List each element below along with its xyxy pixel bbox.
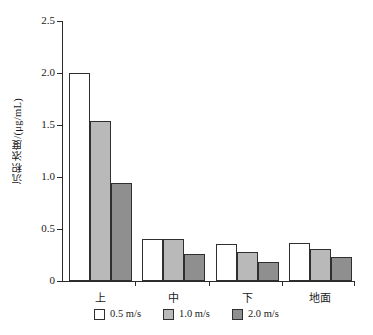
legend-item: 2.0 m/s — [232, 308, 279, 320]
bar — [142, 239, 163, 281]
y-axis-tick-label: 2.0 — [41, 66, 55, 79]
y-axis-tick-label: 1.0 — [41, 170, 55, 183]
x-axis-category-label: 上 — [95, 289, 106, 305]
y-axis-tick-mark — [57, 229, 62, 230]
y-axis-tick-mark — [57, 125, 62, 126]
bar — [163, 239, 184, 281]
y-axis-tick-mark — [57, 21, 62, 22]
x-axis-category-label: 下 — [242, 289, 253, 305]
y-axis-line — [62, 21, 63, 281]
x-axis-category-label: 地面 — [309, 289, 331, 305]
x-axis-minor-tick — [135, 281, 136, 286]
legend-swatch — [163, 309, 174, 320]
legend-swatch — [94, 309, 105, 320]
bar — [90, 121, 111, 281]
x-axis-category-label: 中 — [168, 289, 179, 305]
bar — [184, 254, 205, 281]
legend-item: 0.5 m/s — [94, 308, 141, 320]
y-axis-tick-label: 0 — [50, 274, 56, 287]
y-axis-title-text: 沉积浓度/(μg/mL) — [10, 98, 25, 184]
legend-item: 1.0 m/s — [163, 308, 210, 320]
y-axis-tick-mark — [57, 177, 62, 178]
x-axis-minor-tick — [209, 281, 210, 286]
bar — [258, 262, 279, 281]
chart-legend: 0.5 m/s1.0 m/s2.0 m/s — [0, 308, 373, 320]
bar — [69, 73, 90, 281]
bar — [289, 243, 310, 281]
y-axis-tick-mark — [57, 281, 62, 282]
bar — [237, 252, 258, 281]
x-axis-end-tick — [354, 281, 355, 286]
y-axis-tick-label: 2.5 — [41, 14, 55, 27]
legend-label: 1.0 m/s — [179, 308, 210, 320]
legend-label: 2.0 m/s — [248, 308, 279, 320]
legend-swatch — [232, 309, 243, 320]
y-axis-title: 沉积浓度/(μg/mL) — [6, 0, 28, 281]
bar — [331, 257, 352, 281]
bar-chart-figure: 沉积浓度/(μg/mL) 00.51.01.52.02.5 上中下地面 0.5 … — [0, 0, 373, 335]
bar — [216, 244, 237, 281]
x-axis-minor-tick — [282, 281, 283, 286]
bar — [111, 183, 132, 281]
legend-label: 0.5 m/s — [110, 308, 141, 320]
bar — [310, 249, 331, 281]
y-axis-tick-label: 0.5 — [41, 222, 55, 235]
plot-area: 00.51.01.52.02.5 上中下地面 — [62, 21, 355, 281]
y-axis-tick-label: 1.5 — [41, 118, 55, 131]
y-axis-tick-mark — [57, 73, 62, 74]
